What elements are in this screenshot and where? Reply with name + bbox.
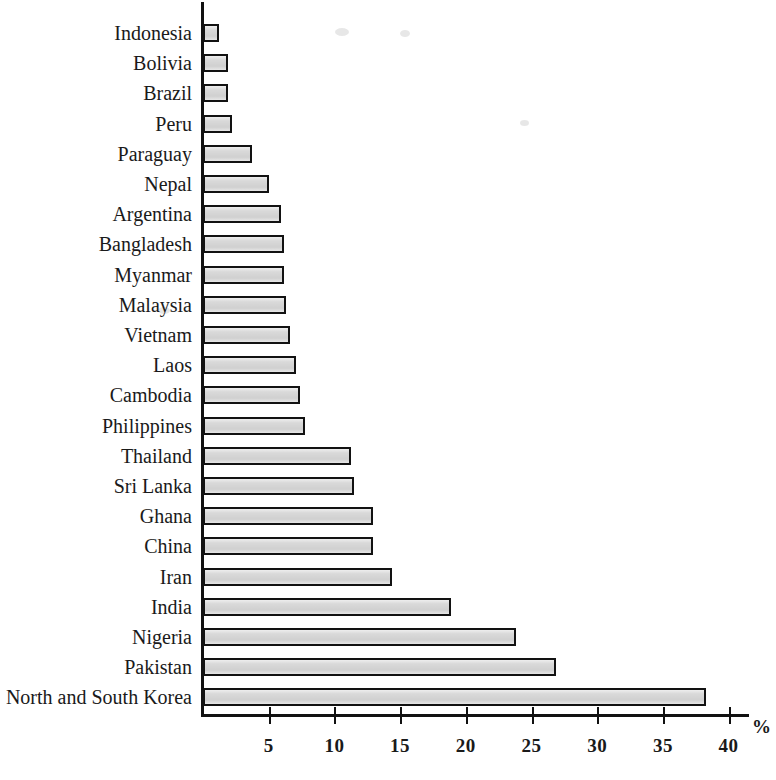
category-label: Myanmar xyxy=(114,260,192,290)
bar-fill xyxy=(205,388,298,402)
category-label: Cambodia xyxy=(110,380,192,410)
bar-fill xyxy=(205,449,349,463)
bar xyxy=(203,447,351,465)
x-axis-tick xyxy=(532,707,534,724)
bar-row: Brazil xyxy=(0,78,776,108)
bar-fill xyxy=(205,660,554,674)
category-label: Thailand xyxy=(121,441,192,471)
bar xyxy=(203,477,354,495)
bar xyxy=(203,54,228,72)
bar-fill xyxy=(205,207,279,221)
bar-row: Iran xyxy=(0,562,776,592)
bar xyxy=(203,417,305,435)
bar-chart: IndonesiaBoliviaBrazilPeruParaguayNepalA… xyxy=(0,0,776,780)
bar-row: Malaysia xyxy=(0,290,776,320)
bar xyxy=(203,598,451,616)
category-label: North and South Korea xyxy=(6,682,192,712)
bar-fill xyxy=(205,86,226,100)
category-label: Philippines xyxy=(102,411,192,441)
category-label: Pakistan xyxy=(124,652,192,682)
bar-fill xyxy=(205,328,288,342)
category-label: Peru xyxy=(155,109,192,139)
x-axis-tick-label: 5 xyxy=(239,735,299,757)
bar-fill xyxy=(205,600,449,614)
category-label: Indonesia xyxy=(114,18,192,48)
category-label: China xyxy=(144,531,192,561)
bar xyxy=(203,628,516,646)
bar-fill xyxy=(205,539,371,553)
bar-fill xyxy=(205,147,250,161)
bar-row: Argentina xyxy=(0,199,776,229)
bar xyxy=(203,326,290,344)
bar-row: Peru xyxy=(0,109,776,139)
bar-fill xyxy=(205,26,217,40)
plot-area: IndonesiaBoliviaBrazilPeruParaguayNepalA… xyxy=(0,0,776,780)
x-axis-tick xyxy=(400,707,402,724)
x-axis-tick-label: 30 xyxy=(567,735,627,757)
category-label: Bolivia xyxy=(133,48,192,78)
category-label: Nigeria xyxy=(132,622,192,652)
category-label: Nepal xyxy=(144,169,192,199)
category-label: Laos xyxy=(153,350,192,380)
bar-row: Paraguay xyxy=(0,139,776,169)
bar-row: North and South Korea xyxy=(0,682,776,712)
category-label: Malaysia xyxy=(119,290,192,320)
bar xyxy=(203,84,228,102)
bar xyxy=(203,688,706,706)
bar-row: Philippines xyxy=(0,411,776,441)
x-axis-tick-label: 20 xyxy=(436,735,496,757)
x-axis-tick xyxy=(466,707,468,724)
x-axis-tick-label: 40 xyxy=(699,735,759,757)
bar xyxy=(203,24,219,42)
x-axis-tick xyxy=(663,707,665,724)
x-axis-tick xyxy=(334,707,336,724)
bar-fill xyxy=(205,630,514,644)
bar-row: Cambodia xyxy=(0,380,776,410)
bar-fill xyxy=(205,479,352,493)
bar xyxy=(203,235,284,253)
bar-row: Pakistan xyxy=(0,652,776,682)
category-label: Bangladesh xyxy=(99,229,192,259)
bar-fill xyxy=(205,509,371,523)
bar-row: Vietnam xyxy=(0,320,776,350)
bar xyxy=(203,266,284,284)
bar-row: Indonesia xyxy=(0,18,776,48)
bar xyxy=(203,507,373,525)
bar-row: Laos xyxy=(0,350,776,380)
axis-unit-label: % xyxy=(752,716,771,738)
x-axis-tick xyxy=(597,707,599,724)
bar-fill xyxy=(205,570,390,584)
bar xyxy=(203,115,232,133)
bar-fill xyxy=(205,690,704,704)
bar xyxy=(203,205,281,223)
bar-fill xyxy=(205,117,230,131)
bar xyxy=(203,296,286,314)
bar-fill xyxy=(205,56,226,70)
category-label: Paraguay xyxy=(118,139,192,169)
x-axis-tick-label: 15 xyxy=(370,735,430,757)
category-label: India xyxy=(151,592,192,622)
bar-fill xyxy=(205,268,282,282)
bar-fill xyxy=(205,237,282,251)
bar-row: Myanmar xyxy=(0,260,776,290)
bar-row: Sri Lanka xyxy=(0,471,776,501)
bar-fill xyxy=(205,298,284,312)
bar-row: Bolivia xyxy=(0,48,776,78)
bar-row: India xyxy=(0,592,776,622)
bar xyxy=(203,356,296,374)
x-axis-line xyxy=(201,714,749,717)
bar xyxy=(203,175,269,193)
bar xyxy=(203,386,300,404)
x-axis-tick xyxy=(269,707,271,724)
bar-row: Nigeria xyxy=(0,622,776,652)
bar xyxy=(203,568,392,586)
bar-row: China xyxy=(0,531,776,561)
x-axis-tick-label: 35 xyxy=(633,735,693,757)
category-label: Argentina xyxy=(112,199,192,229)
bar-fill xyxy=(205,358,294,372)
bar xyxy=(203,145,252,163)
bar-fill xyxy=(205,419,303,433)
bar-row: Thailand xyxy=(0,441,776,471)
x-axis-tick-label: 25 xyxy=(502,735,562,757)
bar xyxy=(203,537,373,555)
